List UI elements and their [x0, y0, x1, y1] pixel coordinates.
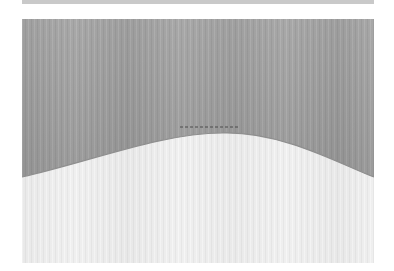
fabric-illustration — [22, 19, 374, 263]
fabric-photo — [22, 19, 374, 263]
top-fabric-strip — [22, 0, 374, 4]
